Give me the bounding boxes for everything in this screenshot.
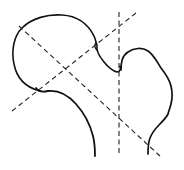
greater-trochanter-outline [121, 48, 172, 154]
femoral-neck-inferior-curve [36, 88, 95, 156]
neck-axis-line [12, 13, 136, 111]
femur-diagram [0, 0, 184, 170]
femur-diagram-svg [0, 0, 184, 170]
femoral-head-outline [13, 15, 121, 91]
